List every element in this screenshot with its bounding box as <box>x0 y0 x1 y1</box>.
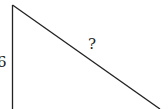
hypotenuse <box>13 5 161 109</box>
triangle-diagram: 6 ? <box>0 0 168 109</box>
vertical-side-label: 6 <box>0 55 7 70</box>
hypotenuse-label: ? <box>88 37 96 52</box>
triangle-figure <box>0 0 168 109</box>
